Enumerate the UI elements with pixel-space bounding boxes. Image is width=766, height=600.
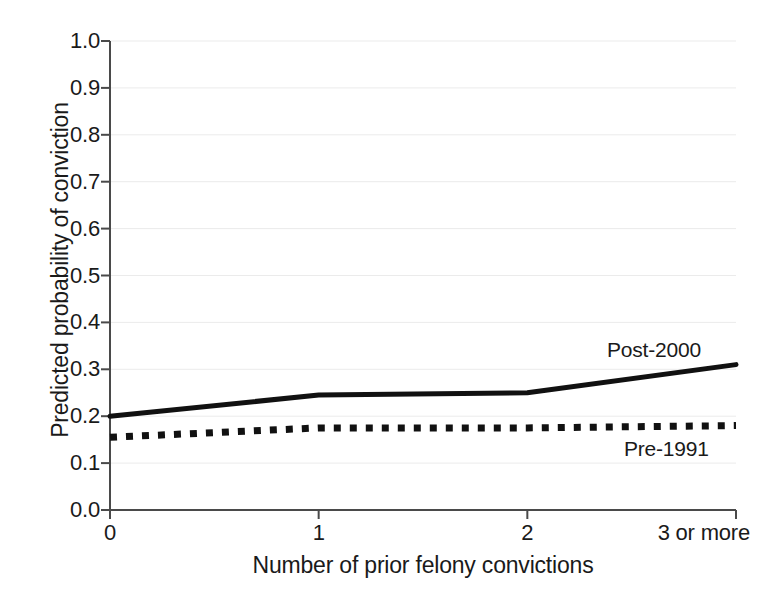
x-axis-tick-label: 2 xyxy=(521,520,533,546)
chart-figure: Predicted probability of conviction 0.00… xyxy=(0,0,766,600)
series-label-post-2000: Post-2000 xyxy=(607,338,701,362)
series-label-pre-1991: Pre-1991 xyxy=(624,437,709,461)
gridlines xyxy=(110,41,736,463)
series-line-pre-1991 xyxy=(110,426,736,438)
x-axis-title: Number of prior felony convictions xyxy=(110,552,736,579)
plot-area xyxy=(0,0,766,600)
x-axis-tick-label: 1 xyxy=(313,520,325,546)
x-axis-tick-label: 0 xyxy=(104,520,116,546)
x-axis-tick-label: 3 or more xyxy=(658,520,750,546)
series-line-post-2000 xyxy=(110,365,736,417)
